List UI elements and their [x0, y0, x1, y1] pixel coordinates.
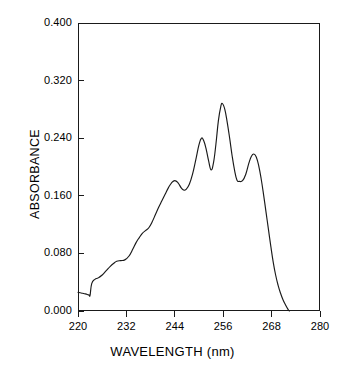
spectrum-line — [78, 103, 289, 311]
x-tick-label: 232 — [103, 320, 149, 332]
y-tick-mark — [78, 195, 84, 196]
x-tick-mark — [320, 311, 321, 317]
x-tick-label: 244 — [152, 320, 198, 332]
y-tick-label: 0.000 — [28, 305, 72, 316]
absorbance-spectrum-chart: 0.0000.0800.1600.2400.3200.400 220232244… — [0, 0, 345, 379]
x-tick-mark — [78, 311, 79, 317]
x-tick-mark — [271, 311, 272, 317]
y-tick-mark — [78, 23, 84, 24]
y-tick-mark — [78, 253, 84, 254]
y-tick-mark — [78, 311, 84, 312]
y-tick-label: 0.400 — [28, 17, 72, 28]
x-tick-label: 268 — [249, 320, 295, 332]
y-axis-title: ABSORBANCE — [28, 74, 42, 274]
y-tick-mark — [78, 138, 84, 139]
x-tick-mark — [223, 311, 224, 317]
x-axis-title: WAVELENGTH (nm) — [0, 344, 345, 359]
x-tick-label: 280 — [297, 320, 343, 332]
y-tick-mark — [78, 80, 84, 81]
x-tick-label: 220 — [55, 320, 101, 332]
x-tick-mark — [174, 311, 175, 317]
x-tick-label: 256 — [200, 320, 246, 332]
spectrum-plot-area — [78, 23, 320, 311]
x-tick-mark — [126, 311, 127, 317]
